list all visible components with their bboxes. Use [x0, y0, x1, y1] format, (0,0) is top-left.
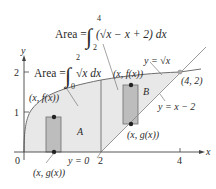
- area-b-upper-limit: 4: [97, 14, 101, 23]
- leader-line-label: [160, 94, 165, 101]
- area-between-curves-diagram: Area = ∫ 4 2 (√x − x + 2) dx Area = ∫ 2 …: [0, 0, 216, 189]
- area-a-upper-limit: 2: [76, 53, 80, 62]
- rect-a-top-label: (x, f(x)): [29, 92, 60, 104]
- area-b-integrand: (√x − x + 2) dx: [96, 28, 168, 41]
- rect-b-bottom-dot: [129, 122, 133, 126]
- x-tick-label-2: 2: [98, 155, 103, 166]
- x-tick-label-4: 4: [177, 155, 182, 166]
- region-b-label: B: [143, 86, 149, 97]
- origin-label: 0: [15, 155, 20, 166]
- rect-a: [46, 117, 61, 152]
- region-a-label: A: [76, 126, 84, 137]
- y-tick-label-2: 2: [14, 67, 19, 78]
- rect-a-top-dot: [52, 115, 56, 119]
- sqrt-curve-label: y = √x: [143, 55, 171, 66]
- region-a-fill: [24, 80, 101, 152]
- area-a-lower-limit: 0: [71, 82, 75, 91]
- rect-b-top-dot: [129, 83, 133, 87]
- x-axis-label: x: [205, 146, 211, 157]
- rect-b-top-label: (x, f(x)): [113, 68, 144, 80]
- rect-a-bottom-label: (x, g(x)): [33, 167, 66, 179]
- x-axis-arrow-icon: [199, 150, 205, 154]
- intersection-dot: [178, 70, 182, 74]
- rect-b: [123, 85, 138, 124]
- rect-a-bottom-dot: [52, 150, 56, 154]
- y-tick-label-1: 1: [14, 107, 19, 118]
- area-b-prefix: Area =: [55, 28, 87, 40]
- area-a-integrand: √x dx: [76, 67, 102, 79]
- intersection-label: (4, 2): [181, 75, 203, 87]
- rect-b-bottom-label: (x, g(x)): [127, 129, 160, 141]
- area-a-prefix: Area =: [34, 67, 66, 79]
- y-axis-label: y: [20, 45, 26, 56]
- leader-rect-a-bottom: [46, 153, 54, 163]
- baseline-label: y = 0: [67, 155, 89, 166]
- area-b-lower-limit: 2: [93, 43, 97, 52]
- line-curve-label: y = x − 2: [157, 101, 195, 112]
